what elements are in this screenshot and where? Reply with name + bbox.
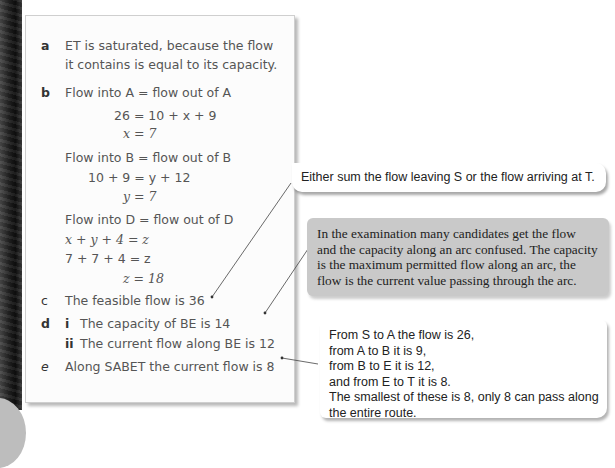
equation: z = 18 [123,271,164,286]
callout-line: flow is the current value passing throug… [317,273,601,289]
callout-line: From S to A the flow is 26, [329,328,607,344]
flow-statement: Flow into A = flow out of A [65,85,231,100]
part-d-i-text: The capacity of BE is 14 [80,316,230,331]
part-label: d [41,316,50,331]
part-e-text: Along SABET the current flow is 8 [65,359,275,374]
callout-feasible-flow-tip: Either sum the flow leaving S or the flo… [292,163,606,192]
part-label: e [41,359,49,374]
flow-statement: Flow into D = flow out of D [65,212,233,227]
equation: x = 7 [123,126,156,141]
equation: x + y + 4 = z [65,232,149,247]
part-label: c [41,293,48,308]
part-d-ii-text: The current flow along BE is 12 [80,336,275,351]
part-a-line-2: it contains is equal to its capacity. [65,57,277,72]
equation: 10 + 9 = y + 12 [88,170,190,185]
sub-label: ii [65,336,74,351]
equation: 7 + 7 + 4 = z [65,251,151,266]
equation: 26 = 10 + x + 9 [114,108,216,123]
decorative-circle [0,398,26,468]
part-label: b [41,85,50,100]
callout-line: the entire route. [329,406,607,422]
callout-line: is the maximum permitted flow along an a… [317,257,601,273]
callout-route-explanation: From S to A the flow is 26, from A to B … [320,320,607,418]
part-c-text: The feasible flow is 36 [65,293,205,308]
sub-label: i [65,316,69,331]
callout-line: In the examination many candidates get t… [317,226,601,242]
equation: y = 7 [123,189,156,204]
callout-line: from B to E it is 12, [329,359,607,375]
callout-exam-warning: In the examination many candidates get t… [307,218,609,296]
background-photo-strip [0,0,22,410]
part-label: a [41,38,49,53]
callout-line: and the capacity along an arc confused. … [317,242,601,258]
part-a-line-1: ET is saturated, because the flow [65,38,273,53]
worked-solution-panel: a ET is saturated, because the flow it c… [25,15,295,403]
callout-line: The smallest of these is 8, only 8 can p… [329,390,607,406]
callout-text: Either sum the flow leaving S or the flo… [301,170,595,184]
flow-statement: Flow into B = flow out of B [65,150,231,165]
callout-line: from A to B it is 9, [329,344,607,360]
callout-line: and from E to T it is 8. [329,375,607,391]
